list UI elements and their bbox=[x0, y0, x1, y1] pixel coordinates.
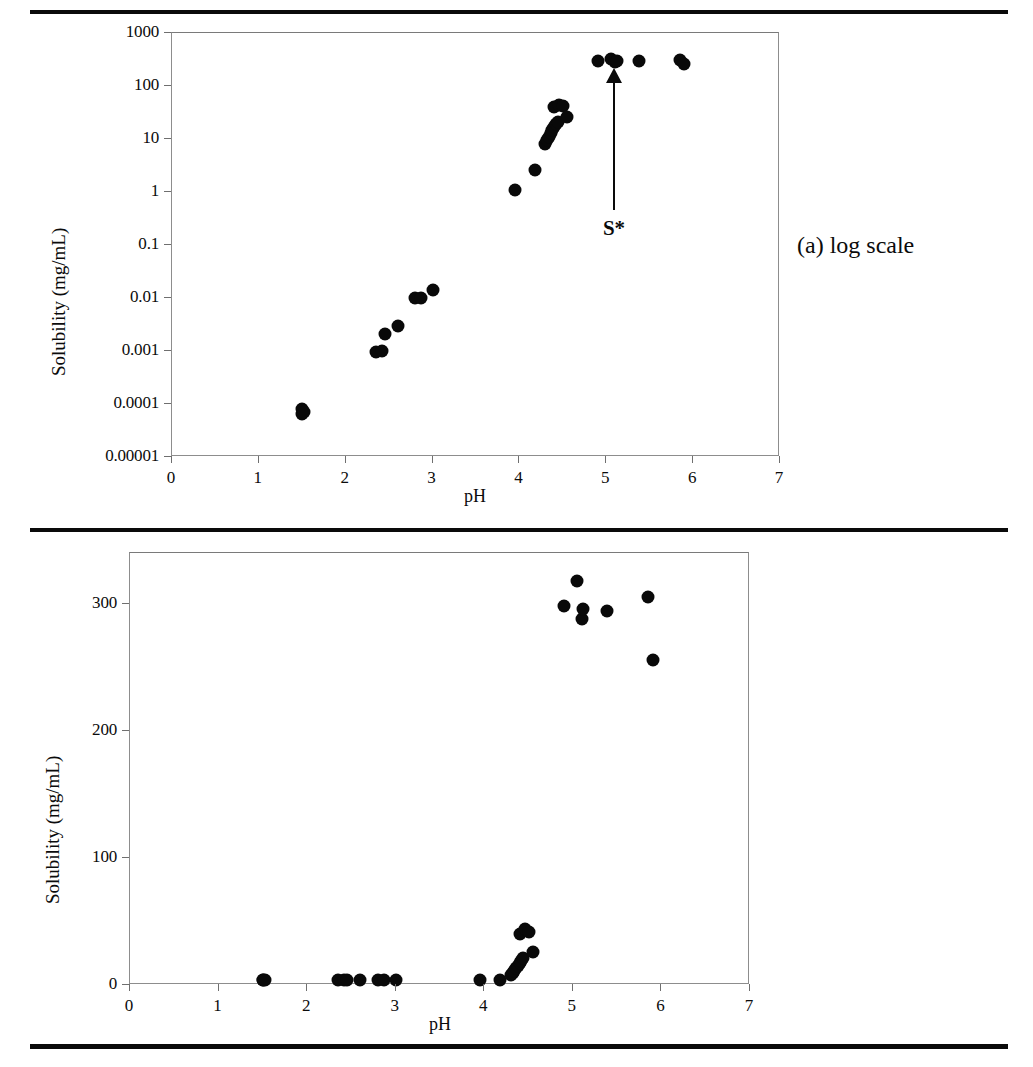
y-axis-tick-label: 1000 bbox=[1, 22, 159, 42]
x-axis-title-log: pH bbox=[464, 486, 486, 507]
data-point bbox=[376, 345, 389, 358]
plot-area-linear bbox=[129, 552, 749, 984]
x-axis-tick bbox=[572, 984, 573, 991]
y-axis-tick bbox=[122, 984, 129, 985]
rule-bottom bbox=[30, 1044, 1008, 1049]
x-axis-tick bbox=[345, 456, 346, 463]
data-point bbox=[509, 183, 522, 196]
y-axis-tick bbox=[164, 403, 171, 404]
plot-area-log bbox=[171, 32, 779, 456]
y-axis-tick-label: 200 bbox=[0, 720, 117, 740]
data-point bbox=[577, 602, 590, 615]
x-axis-tick-label: 5 bbox=[568, 996, 577, 1016]
y-axis-tick-label: 0.00001 bbox=[1, 446, 159, 466]
x-axis-tick-label: 3 bbox=[427, 468, 436, 488]
data-point bbox=[522, 925, 535, 938]
data-point bbox=[389, 973, 402, 986]
y-axis-title-linear: Solubility (mg/mL) bbox=[42, 756, 64, 904]
x-axis-tick-label: 3 bbox=[390, 996, 399, 1016]
x-axis-tick bbox=[749, 984, 750, 991]
plot-inner-log bbox=[172, 33, 778, 455]
data-point bbox=[633, 55, 646, 68]
x-axis-tick bbox=[432, 456, 433, 463]
x-axis-tick-label: 4 bbox=[479, 996, 488, 1016]
x-axis-tick-label: 6 bbox=[688, 468, 697, 488]
y-axis-tick-label: 0.0001 bbox=[1, 393, 159, 413]
plot-inner-linear bbox=[130, 553, 748, 983]
x-axis-title-linear: pH bbox=[429, 1014, 451, 1035]
y-axis-tick bbox=[164, 456, 171, 457]
data-point bbox=[558, 600, 571, 613]
data-point bbox=[591, 54, 604, 67]
data-point bbox=[415, 292, 428, 305]
x-axis-tick-label: 5 bbox=[601, 468, 610, 488]
x-axis-tick-label: 1 bbox=[213, 996, 222, 1016]
y-axis-tick bbox=[122, 730, 129, 731]
data-point bbox=[561, 111, 574, 124]
x-axis-tick bbox=[660, 984, 661, 991]
x-axis-tick-label: 0 bbox=[167, 468, 176, 488]
data-point bbox=[258, 973, 271, 986]
data-point bbox=[527, 945, 540, 958]
panel-linear-scale: Solubility (mg/mL) 0100200300 01234567 p… bbox=[0, 536, 1033, 1036]
data-point bbox=[354, 973, 367, 986]
data-point bbox=[678, 58, 691, 71]
data-point bbox=[571, 574, 584, 587]
x-axis-tick-label: 2 bbox=[302, 996, 311, 1016]
data-point bbox=[642, 591, 655, 604]
arrow-shaft bbox=[613, 81, 615, 210]
y-axis-tick bbox=[122, 857, 129, 858]
x-axis-tick bbox=[395, 984, 396, 991]
x-axis-tick bbox=[518, 456, 519, 463]
y-axis-tick bbox=[164, 32, 171, 33]
x-axis-tick bbox=[129, 984, 130, 991]
y-axis-tick-label: 0.01 bbox=[1, 287, 159, 307]
rule-top bbox=[30, 10, 1008, 14]
y-axis-tick bbox=[122, 603, 129, 604]
y-axis-tick-label: 0 bbox=[0, 974, 117, 994]
y-axis-tick-label: 100 bbox=[1, 75, 159, 95]
x-axis-tick-label: 1 bbox=[254, 468, 263, 488]
data-point bbox=[391, 320, 404, 333]
x-axis-tick bbox=[306, 984, 307, 991]
data-point bbox=[600, 605, 613, 618]
x-axis-tick-label: 7 bbox=[745, 996, 754, 1016]
y-axis-tick bbox=[164, 138, 171, 139]
y-axis-tick-label: 300 bbox=[0, 593, 117, 613]
y-axis-tick-label: 1 bbox=[1, 181, 159, 201]
data-point bbox=[341, 973, 354, 986]
x-axis-tick-label: 4 bbox=[514, 468, 523, 488]
x-axis-tick bbox=[483, 984, 484, 991]
y-axis-tick bbox=[164, 350, 171, 351]
data-point bbox=[378, 327, 391, 340]
x-axis-tick bbox=[218, 984, 219, 991]
panel-log-scale: Solubility (mg/mL) 0.000010.00010.0010.0… bbox=[0, 16, 1033, 516]
y-axis-tick-label: 0.001 bbox=[1, 340, 159, 360]
x-axis-tick-label: 6 bbox=[656, 996, 665, 1016]
y-axis-tick-label: 10 bbox=[1, 128, 159, 148]
x-axis-tick-label: 7 bbox=[775, 468, 784, 488]
x-axis-tick bbox=[171, 456, 172, 463]
figure-container: Solubility (mg/mL) 0.000010.00010.0010.0… bbox=[0, 0, 1033, 1067]
x-axis-tick bbox=[258, 456, 259, 463]
x-axis-tick bbox=[779, 456, 780, 463]
x-axis-tick-label: 2 bbox=[340, 468, 349, 488]
y-axis-tick-label: 0.1 bbox=[1, 234, 159, 254]
data-point bbox=[529, 164, 542, 177]
data-point bbox=[473, 973, 486, 986]
y-axis-tick-label: 100 bbox=[0, 847, 117, 867]
data-point bbox=[646, 653, 659, 666]
y-axis-tick bbox=[164, 297, 171, 298]
y-axis-tick bbox=[164, 244, 171, 245]
caption-panel-a: (a) log scale bbox=[797, 232, 914, 259]
data-point bbox=[610, 55, 623, 68]
data-point bbox=[298, 405, 311, 418]
rule-middle bbox=[30, 528, 1008, 532]
x-axis-tick-label: 0 bbox=[125, 996, 134, 1016]
data-point bbox=[426, 284, 439, 297]
y-axis-tick bbox=[164, 191, 171, 192]
x-axis-tick bbox=[605, 456, 606, 463]
annotation-label-s-star: S* bbox=[603, 216, 625, 241]
x-axis-tick bbox=[692, 456, 693, 463]
y-axis-tick bbox=[164, 85, 171, 86]
